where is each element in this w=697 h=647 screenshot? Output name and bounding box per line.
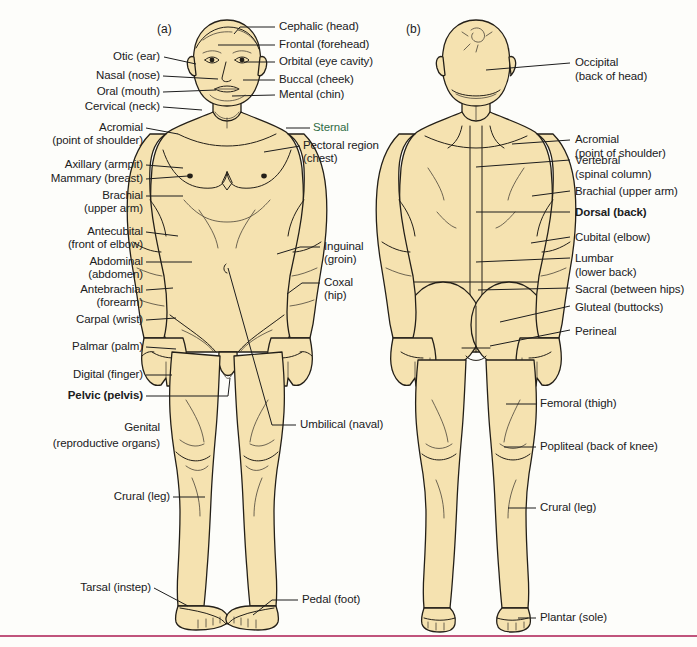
bottom-rule <box>0 635 697 637</box>
label-crural-posterior: Crural (leg) <box>540 501 596 515</box>
label-buccal: Buccal (cheek) <box>279 73 354 87</box>
label-frontal: Frontal (forehead) <box>279 38 369 52</box>
label-mammary: Mammary (breast) <box>0 172 143 186</box>
label-lumbar: Lumbar <box>575 252 613 266</box>
label-acromial-anterior-sub: (point of shoulder) <box>0 134 143 148</box>
label-axillary: Axillary (armpit) <box>0 158 143 172</box>
label-gluteal: Gluteal (buttocks) <box>575 301 663 315</box>
label-sacral: Sacral (between hips) <box>575 283 684 297</box>
label-occipital-sub: (back of head) <box>575 70 647 84</box>
panel-letter-a: (a) <box>157 22 172 36</box>
label-pectoral-region: Pectoral region <box>303 139 379 153</box>
label-coxal-sub: (hip) <box>324 289 347 303</box>
panel-letter-b: (b) <box>406 22 421 36</box>
label-abdominal-sub: (abdomen) <box>0 268 143 282</box>
label-acromial-anterior: Acromial <box>0 121 143 135</box>
label-brachial-anterior: Brachial <box>0 189 143 203</box>
label-pelvic: Pelvic (pelvis) <box>0 389 143 403</box>
label-tarsal: Tarsal (instep) <box>0 581 151 595</box>
label-popliteal: Popliteal (back of knee) <box>540 440 658 454</box>
label-cervical: Cervical (neck) <box>0 100 160 114</box>
label-genital-sub: (reproductive organs) <box>0 437 160 451</box>
anatomical-regions-figure: .sk { fill:#f5e2b0; stroke:#231f18; stro… <box>0 0 697 647</box>
label-inguinal: Inguinal <box>324 240 363 254</box>
label-palmar: Palmar (palm) <box>0 340 143 354</box>
label-orbital: Orbital (eye cavity) <box>279 55 373 69</box>
label-vertebral: Vertebral <box>575 154 620 168</box>
label-digital: Digital (finger) <box>0 368 143 382</box>
label-abdominal: Abdominal <box>0 255 143 269</box>
label-sternal: Sternal <box>313 121 349 135</box>
label-antecubital-sub: (front of elbow) <box>0 238 143 252</box>
label-plantar: Plantar (sole) <box>540 611 607 625</box>
label-dorsal: Dorsal (back) <box>575 206 647 220</box>
label-oral: Oral (mouth) <box>0 85 160 99</box>
label-lumbar-sub: (lower back) <box>575 266 636 280</box>
label-carpal: Carpal (wrist) <box>0 313 143 327</box>
label-genital: Genital <box>0 421 160 435</box>
label-antebrachial: Antebrachial <box>0 283 143 297</box>
posterior-body <box>376 20 576 632</box>
label-coxal: Coxal <box>324 276 353 290</box>
label-antecubital: Antecubital <box>0 225 143 239</box>
label-pectoral-region-sub: (chest) <box>303 152 337 166</box>
label-inguinal-sub: (groin) <box>324 253 357 267</box>
label-umbilical: Umbilical (naval) <box>300 418 383 432</box>
label-brachial-posterior: Brachial (upper arm) <box>575 185 678 199</box>
label-occipital: Occipital <box>575 56 618 70</box>
label-femoral: Femoral (thigh) <box>540 397 616 411</box>
label-nasal: Nasal (nose) <box>0 69 160 83</box>
label-cephalic: Cephalic (head) <box>279 20 359 34</box>
label-perineal: Perineal <box>575 325 616 339</box>
label-mental: Mental (chin) <box>279 88 344 102</box>
label-vertebral-sub: (spinal column) <box>575 168 651 182</box>
label-crural-anterior: Crural (leg) <box>0 490 170 504</box>
label-pedal: Pedal (foot) <box>302 593 360 607</box>
label-otic: Otic (ear) <box>0 50 160 64</box>
label-acromial-posterior: Acromial <box>575 133 619 147</box>
label-antebrachial-sub: (forearm) <box>0 296 143 310</box>
label-cubital: Cubital (elbow) <box>575 231 650 245</box>
label-brachial-anterior-sub: (upper arm) <box>0 202 143 216</box>
